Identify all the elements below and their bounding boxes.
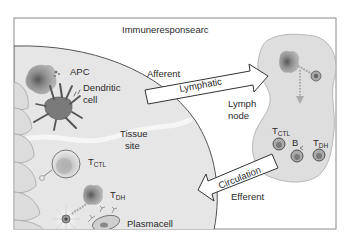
dendritic-label: Dendritic <box>83 82 121 93</box>
tissue-tdh-cell <box>83 185 102 204</box>
efferent-label: Efferent <box>231 191 264 202</box>
plasmacell-label: Plasmacell <box>127 218 173 229</box>
immune-response-diagram: Lymphatic Circulation Immuneresponsearc … <box>0 0 348 250</box>
tissue-site-label: Tissue <box>120 128 148 139</box>
lymph-node-label-2: node <box>228 110 249 121</box>
diagram-title: Immuneresponsearc <box>122 24 209 35</box>
lymph-node-label: Lymph <box>228 98 256 109</box>
apc-label: APC <box>70 66 90 77</box>
afferent-label: Afferent <box>147 68 180 79</box>
dendritic-label-2: cell <box>83 94 97 105</box>
node-b-label: B <box>292 137 298 148</box>
tissue-site-label-2: site <box>125 140 140 151</box>
